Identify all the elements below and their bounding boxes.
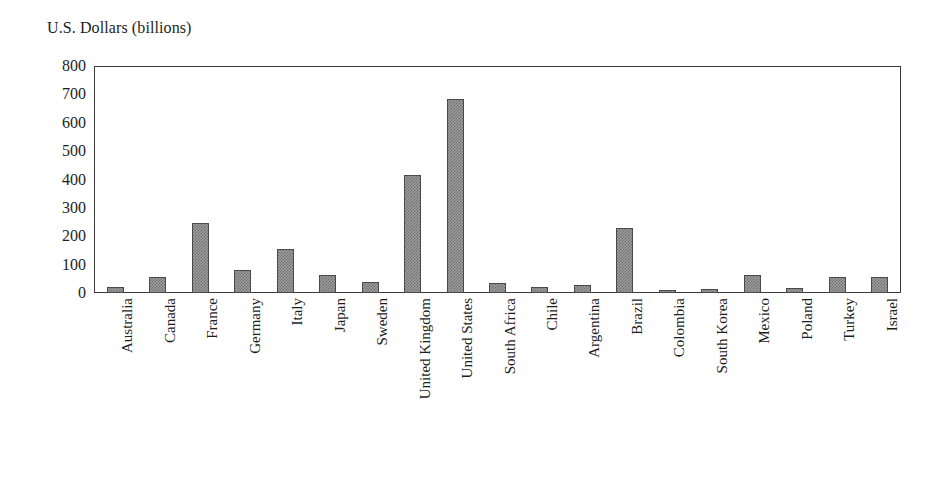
x-axis-label: Mexico [752,298,767,344]
x-axis-label: Argentina [582,298,597,358]
x-axis-label: South Africa [498,298,513,374]
x-axis-label: France [200,298,215,339]
bar [192,223,209,293]
x-axis-label: Chile [540,298,555,331]
x-axis-label-text: Colombia [672,298,687,357]
x-axis-label-text: Chile [545,298,560,331]
bar [829,277,846,293]
bar [447,99,464,293]
x-axis-label-text: United Kingdom [418,298,433,399]
bar [404,175,421,293]
x-axis-label: Colombia [667,298,682,357]
bar [871,277,888,293]
y-tick-label: 0 [42,285,86,301]
x-axis-label: Poland [795,298,810,340]
y-tick-label: 600 [42,115,86,131]
x-axis-label: Japan [328,298,343,332]
x-axis-label-text: Mexico [757,298,772,344]
y-tick-label: 300 [42,200,86,216]
y-tick-label: 200 [42,228,86,244]
x-axis-label-text: Canada [163,298,178,343]
y-tick-label: 500 [42,143,86,159]
x-axis-label: Brazil [625,298,640,335]
y-tick-label: 400 [42,172,86,188]
bar [616,228,633,293]
bar [489,283,506,293]
x-axis-label-text: South Korea [715,298,730,373]
x-axis-label-text: France [205,298,220,339]
x-axis-label: Italy [285,298,300,326]
bar [531,287,548,293]
y-axis-tick-labels: 0100200300400500600700800 [36,66,86,293]
x-axis-label-text: Italy [290,298,305,326]
bar [319,275,336,293]
x-axis-label: Germany [243,298,258,354]
x-axis-label-text: United States [460,298,475,378]
x-axis-label-text: Israel [885,298,900,331]
x-axis-label-text: South Africa [503,298,518,374]
x-axis-label-text: Germany [248,298,263,354]
x-axis-label-text: Sweden [375,298,390,346]
bar [362,282,379,293]
bar [701,289,718,293]
bar [786,288,803,293]
x-axis-label-text: Turkey [842,298,857,341]
x-axis-label: United Kingdom [413,298,428,399]
bar [149,277,166,293]
x-axis-label-text: Argentina [587,298,602,358]
x-axis-label-text: Japan [333,298,348,332]
y-tick-label: 100 [42,257,86,273]
bar [277,249,294,293]
bar-chart-figure: U.S. Dollars (billions) 0100200300400500… [0,0,947,486]
chart-title: U.S. Dollars (billions) [47,18,192,38]
x-axis-label: Canada [158,298,173,343]
x-axis-label: Australia [115,298,130,353]
x-axis-label: Israel [880,298,895,331]
bar [107,287,124,293]
x-axis-label-text: Australia [120,298,135,353]
bar [234,270,251,293]
y-tick-label: 700 [42,86,86,102]
bar [744,275,761,293]
x-axis-label: Turkey [837,298,852,341]
x-axis-label: South Korea [710,298,725,373]
bar [574,285,591,294]
x-axis-label-text: Brazil [630,298,645,335]
bars-layer [94,66,901,293]
x-axis-category-labels: AustraliaCanadaFranceGermanyItalyJapanSw… [94,298,901,448]
bar [659,290,676,293]
x-axis-label: Sweden [370,298,385,346]
y-tick-label: 800 [42,58,86,74]
x-axis-label: United States [455,298,470,378]
x-axis-label-text: Poland [800,298,815,340]
